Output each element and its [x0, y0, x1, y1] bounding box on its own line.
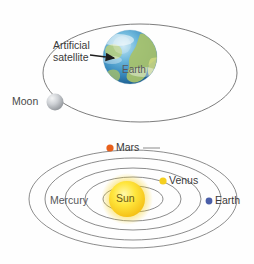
label-planet-earth: Earth	[215, 195, 240, 207]
label-earth-globe: Earth	[122, 64, 146, 75]
label-artificial-satellite: Artificial satellite	[53, 40, 90, 64]
label-planet-mercury: Mercury	[50, 195, 88, 207]
label-moon: Moon	[12, 96, 38, 108]
label-planet-mars: Mars	[116, 142, 139, 154]
moon-sphere	[47, 94, 64, 111]
label-planet-venus: Venus	[169, 175, 198, 187]
planet-marker-venus	[159, 177, 166, 184]
label-artificial-satellite-line1: Artificial	[53, 40, 90, 52]
diagram-canvas	[0, 0, 254, 264]
planet-marker-earth	[206, 198, 213, 205]
figure-container: Artificial satellite Earth Moon Mars Ven…	[0, 0, 254, 264]
planet-marker-mars	[106, 144, 113, 151]
label-artificial-satellite-line2: satellite	[53, 52, 90, 64]
label-sun: Sun	[116, 193, 135, 205]
